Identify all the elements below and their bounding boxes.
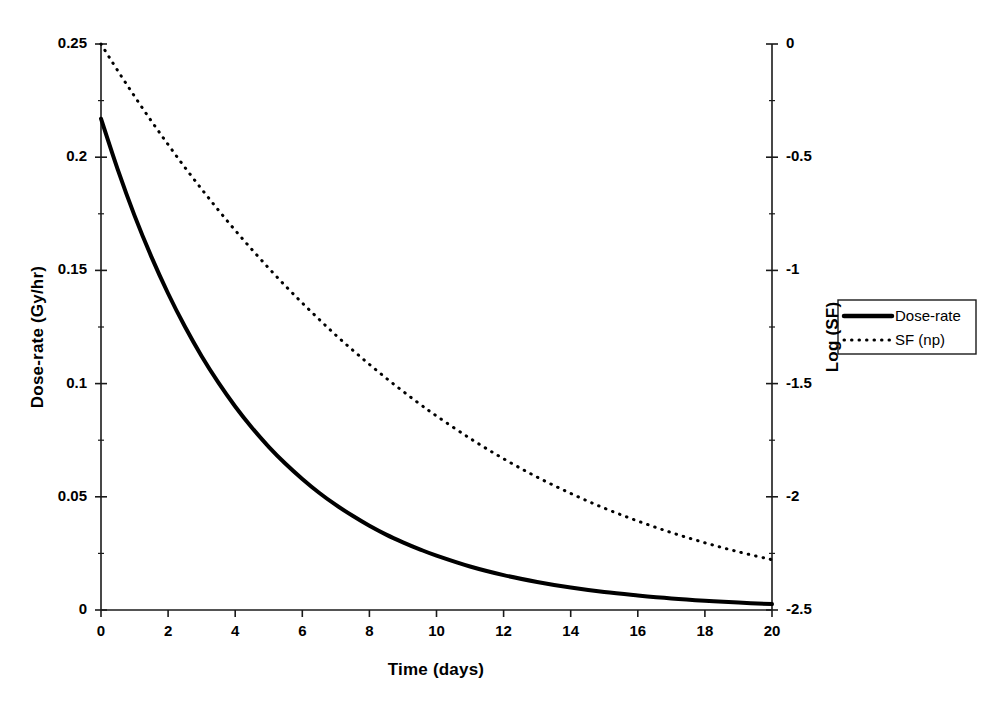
y-left-tick-label: 0.1 [19, 374, 87, 391]
chart-figure: Dose-rateSF (np) Dose-rate (Gy/hr) Log (… [0, 0, 991, 706]
series-line-2 [101, 44, 772, 560]
x-axis-title: Time (days) [336, 660, 536, 680]
x-tick-label: 4 [205, 622, 265, 639]
y-left-tick-label: 0.2 [19, 147, 87, 164]
y-right-tick-label: -2 [786, 487, 846, 504]
y-left-tick-label: 0.25 [19, 34, 87, 51]
y-right-tick-label: -2.5 [786, 600, 846, 617]
y-right-tick-label: -1 [786, 260, 846, 277]
tick-marks [95, 44, 778, 617]
x-tick-label: 16 [608, 622, 668, 639]
y-left-tick-label: 0 [19, 600, 87, 617]
legend-label-1: Dose-rate [895, 307, 961, 324]
x-tick-label: 0 [71, 622, 131, 639]
axes [101, 44, 772, 610]
x-tick-label: 18 [675, 622, 735, 639]
legend-label-2: SF (np) [895, 331, 945, 348]
y-left-tick-label: 0.15 [19, 260, 87, 277]
x-tick-label: 20 [742, 622, 802, 639]
x-tick-label: 10 [407, 622, 467, 639]
x-tick-label: 12 [474, 622, 534, 639]
y-right-tick-label: -0.5 [786, 147, 846, 164]
x-tick-label: 8 [339, 622, 399, 639]
data-series [101, 44, 772, 604]
y-right-tick-label: 0 [786, 34, 846, 51]
x-tick-label: 14 [541, 622, 601, 639]
series-line-1 [101, 119, 772, 604]
x-tick-label: 2 [138, 622, 198, 639]
y-right-tick-label: -1.5 [786, 374, 846, 391]
y-left-tick-label: 0.05 [19, 487, 87, 504]
x-tick-label: 6 [272, 622, 332, 639]
legend: Dose-rateSF (np) [838, 300, 976, 354]
